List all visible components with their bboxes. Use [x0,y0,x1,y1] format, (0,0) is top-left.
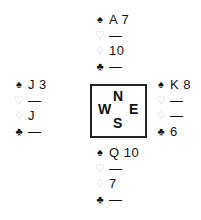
west-diamonds: J [28,108,35,124]
east-clubs-row: ♣ 6 [154,124,191,140]
south-diamonds: 7 [109,176,117,192]
north-diamonds: 10 [109,43,124,59]
west-clubs-row: ♣ — [12,124,47,140]
club-icon: ♣ [12,124,26,140]
east-diamonds-row: ♢ — [154,108,191,124]
club-icon: ♣ [93,59,107,75]
west-hearts: — [28,93,42,109]
diamond-icon: ♢ [93,43,107,59]
west-diamonds-row: ♢ J [12,108,47,124]
east-spades: K 8 [170,77,191,93]
north-hearts-row: ♡ — [93,28,129,44]
north-clubs-row: ♣ — [93,59,129,75]
east-spades-row: ♠ K 8 [154,77,191,93]
heart-icon: ♡ [12,93,26,109]
compass-west-label: W [98,101,111,117]
south-hearts-row: ♡ — [93,161,139,177]
club-icon: ♣ [93,192,107,208]
spade-icon: ♠ [154,77,168,93]
heart-icon: ♡ [93,161,107,177]
east-hearts-row: ♡ — [154,93,191,109]
south-clubs: — [109,192,123,208]
south-spades: Q 10 [109,145,139,161]
east-diamonds: — [170,108,184,124]
west-spades-row: ♠ J 3 [12,77,47,93]
south-hand: ♠ Q 10 ♡ — ♢ 7 ♣ — [93,145,139,207]
west-hand: ♠ J 3 ♡ — ♢ J ♣ — [12,77,47,139]
north-spades-row: ♠ A 7 [93,12,129,28]
south-clubs-row: ♣ — [93,192,139,208]
club-icon: ♣ [154,124,168,140]
compass-east-label: E [129,101,138,117]
heart-icon: ♡ [154,93,168,109]
east-hearts: — [170,93,184,109]
north-hand: ♠ A 7 ♡ — ♢ 10 ♣ — [93,12,129,74]
spade-icon: ♠ [93,12,107,28]
heart-icon: ♡ [93,28,107,44]
north-clubs: — [109,59,123,75]
south-diamonds-row: ♢ 7 [93,176,139,192]
compass-box: N W E S [90,84,147,138]
north-hearts: — [109,28,123,44]
diamond-icon: ♢ [154,108,168,124]
south-spades-row: ♠ Q 10 [93,145,139,161]
east-hand: ♠ K 8 ♡ — ♢ — ♣ 6 [154,77,191,139]
north-spades: A 7 [109,12,129,28]
compass-north-label: N [113,88,123,104]
north-diamonds-row: ♢ 10 [93,43,129,59]
east-clubs: 6 [170,124,178,140]
south-hearts: — [109,161,123,177]
west-hearts-row: ♡ — [12,93,47,109]
spade-icon: ♠ [12,77,26,93]
diamond-icon: ♢ [93,176,107,192]
west-clubs: — [28,124,42,140]
diamond-icon: ♢ [12,108,26,124]
west-spades: J 3 [28,77,47,93]
compass-south-label: S [113,115,122,131]
spade-icon: ♠ [93,145,107,161]
